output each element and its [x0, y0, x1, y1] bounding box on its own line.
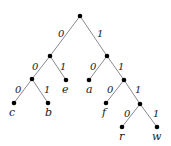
node-leaf-a [87, 78, 92, 83]
bit-label-n111-w: 1 [153, 108, 159, 119]
bit-label-n1-n11: 1 [118, 61, 124, 72]
leaf-label-a: a [86, 83, 93, 96]
bit-label-n0-e: 1 [60, 61, 66, 72]
edge-root-n0 [50, 16, 80, 56]
code-tree-diagram: 0 1 0 1 0 1 0 1 0 1 0 1 e a c b f r w [0, 0, 171, 146]
node-n1 [105, 54, 110, 59]
bit-label-n0-n00: 0 [32, 61, 39, 72]
node-leaf-b [46, 101, 51, 106]
leaf-label-b: b [45, 106, 52, 119]
bit-label-root-n0: 0 [58, 28, 65, 39]
node-n00 [30, 77, 35, 82]
leaf-label-f: f [101, 106, 108, 119]
bit-label-n11-n111: 1 [135, 84, 141, 95]
node-root [78, 14, 83, 19]
leaf-label-w: w [152, 130, 162, 143]
bit-label-n1-a: 0 [90, 61, 97, 72]
leaf-label-r: r [119, 130, 125, 143]
bit-label-n00-b: 1 [44, 84, 50, 95]
node-leaf-f [104, 101, 109, 106]
node-n111 [138, 102, 143, 107]
node-n0 [48, 54, 53, 59]
node-leaf-c [12, 101, 17, 106]
node-n11 [122, 78, 127, 83]
leaf-label-c: c [9, 106, 15, 119]
bit-label-n111-r: 0 [124, 108, 131, 119]
node-leaf-w [155, 125, 160, 130]
bit-label-root-n1: 1 [97, 28, 103, 39]
bit-label-n00-c: 0 [15, 84, 22, 95]
node-leaf-e [64, 78, 69, 83]
leaf-label-e: e [62, 83, 69, 96]
bit-label-n11-f: 0 [107, 84, 114, 95]
node-leaf-r [120, 125, 125, 130]
